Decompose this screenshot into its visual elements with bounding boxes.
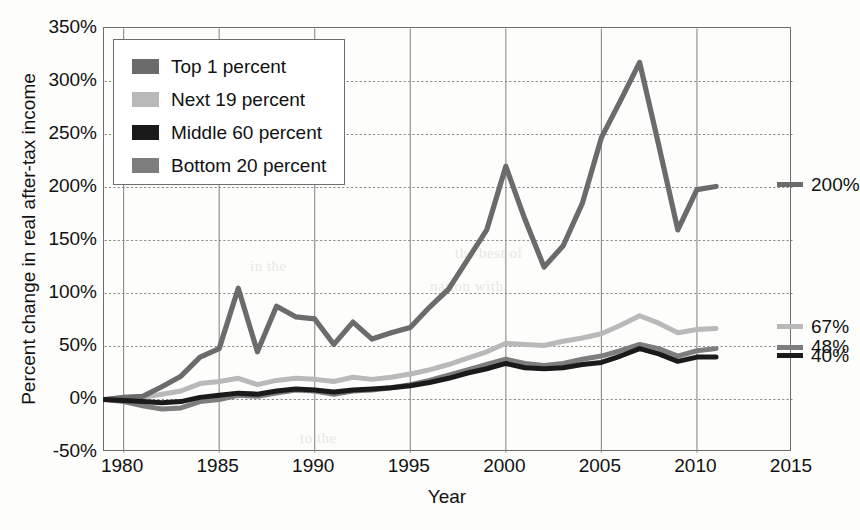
legend-swatch-bottom-20-percent bbox=[132, 158, 159, 173]
chart-legend: Top 1 percent Next 19 percent Middle 60 … bbox=[113, 39, 345, 185]
legend-item: Next 19 percent bbox=[132, 83, 344, 116]
y-tick-label: 350% bbox=[5, 16, 97, 38]
y-axis-ticks: -50%0%50%100%150%200%250%300%350% bbox=[0, 0, 97, 530]
legend-label-next-19-percent: Next 19 percent bbox=[171, 89, 305, 111]
legend-swatch-next-19-percent bbox=[132, 92, 159, 107]
legend-label-bottom-20-percent: Bottom 20 percent bbox=[171, 155, 326, 177]
y-tick-label: -50% bbox=[5, 440, 97, 462]
legend-item: Top 1 percent bbox=[132, 50, 344, 83]
legend-label-top-1-percent: Top 1 percent bbox=[171, 56, 286, 78]
series-end-label: 200% bbox=[811, 174, 860, 196]
x-tick-label: 2005 bbox=[579, 455, 621, 477]
legend-item: Bottom 20 percent bbox=[132, 149, 344, 182]
series-end-tail bbox=[777, 345, 803, 350]
x-tick-label: 2010 bbox=[674, 455, 716, 477]
legend-label-middle-60-percent: Middle 60 percent bbox=[171, 122, 322, 144]
series-end-tail bbox=[777, 353, 803, 358]
legend-swatch-top-1-percent bbox=[132, 59, 159, 74]
x-tick-label: 2015 bbox=[770, 455, 812, 477]
legend-swatch-middle-60-percent bbox=[132, 125, 159, 140]
x-tick-label: 1990 bbox=[292, 455, 334, 477]
legend-item: Middle 60 percent bbox=[132, 116, 344, 149]
series-end-label: 67% bbox=[811, 316, 849, 338]
x-axis-label: Year bbox=[103, 486, 791, 508]
x-tick-label: 1995 bbox=[388, 455, 430, 477]
series-end-tail bbox=[777, 182, 803, 187]
x-tick-label: 1985 bbox=[197, 455, 239, 477]
y-axis-label: Percent change in real after-tax income bbox=[18, 39, 40, 439]
x-tick-label: 1980 bbox=[101, 455, 143, 477]
series-end-label: 48% bbox=[811, 336, 849, 358]
x-tick-label: 2000 bbox=[483, 455, 525, 477]
series-end-tail bbox=[777, 324, 803, 329]
